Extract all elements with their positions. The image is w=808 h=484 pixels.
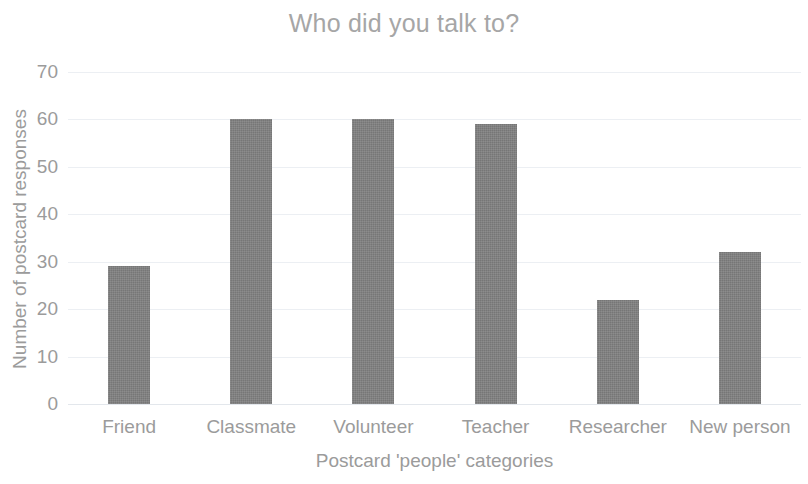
chart-title: Who did you talk to? (0, 6, 808, 40)
gridline (68, 404, 801, 405)
y-axis-tick-label: 50 (4, 157, 58, 176)
x-axis-tick-label: New person (679, 412, 801, 446)
bar-slot (557, 72, 679, 404)
x-axis-tick-label: Researcher (557, 412, 679, 446)
y-axis-tick-label: 30 (4, 252, 58, 271)
y-axis-tick-label: 40 (4, 204, 58, 223)
x-axis-tick-label: Teacher (435, 412, 557, 446)
y-axis-tick-label: 20 (4, 299, 58, 318)
bar (230, 119, 272, 404)
bar (597, 300, 639, 404)
y-axis-tick-label: 60 (4, 109, 58, 128)
bar-slot (435, 72, 557, 404)
x-axis-tick-labels: FriendClassmateVolunteerTeacherResearche… (68, 412, 801, 446)
y-axis-tick-label: 10 (4, 347, 58, 366)
bar-slot (190, 72, 312, 404)
bar (719, 252, 761, 404)
y-axis-tick-label: 0 (4, 394, 58, 413)
bar (352, 119, 394, 404)
x-axis-title: Postcard 'people' categories (68, 450, 801, 472)
bar-slot (312, 72, 434, 404)
bar (475, 124, 517, 404)
bar-slot (679, 72, 801, 404)
bars-layer (68, 72, 801, 404)
plot-area: 706050403020100 (68, 72, 801, 404)
bar (108, 266, 150, 404)
bar-slot (68, 72, 190, 404)
x-axis-tick-label: Friend (68, 412, 190, 446)
bar-chart: Who did you talk to? Number of postcard … (0, 0, 808, 484)
x-axis-tick-label: Volunteer (312, 412, 434, 446)
x-axis-tick-label: Classmate (190, 412, 312, 446)
y-axis-tick-label: 70 (4, 62, 58, 81)
